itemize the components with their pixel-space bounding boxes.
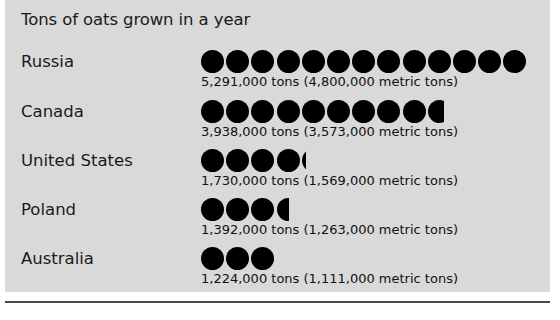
circle-icon [327, 100, 350, 123]
circle-icon [226, 247, 249, 270]
circle-icon [201, 247, 224, 270]
pictogram-symbol-circle [226, 247, 249, 270]
pictogram-row-russia: Russia 5,291,000 tons (4,800,000 metric … [5, 48, 550, 98]
partial-circle-icon [277, 198, 290, 221]
pictogram-symbol-circle [226, 50, 249, 73]
pictogram-row-canada: Canada 3,938,000 tons (3,573,000 metric … [5, 98, 550, 148]
pictogram-symbol-circle [428, 50, 451, 73]
row-label-australia: Australia [21, 249, 94, 268]
pictogram-symbol-circle [453, 50, 476, 73]
circle-icon [453, 50, 476, 73]
row-caption-russia: 5,291,000 tons (4,800,000 metric tons) [201, 74, 458, 89]
pictogram-symbol-circle [201, 247, 224, 270]
pictogram-symbol-circle [302, 50, 325, 73]
row-label-united-states: United States [21, 151, 133, 170]
pictogram-symbol-circle [403, 100, 426, 123]
pictogram-symbol-partial-circle [277, 198, 290, 221]
pictogram-symbol-partial-circle [428, 100, 444, 123]
pictogram-symbol-circle [251, 149, 274, 172]
symbol-group-united-states [201, 147, 309, 173]
circle-icon [428, 50, 451, 73]
pictogram-symbol-circle [201, 149, 224, 172]
pictogram-row-united-states: United States 1,730,000 tons (1,569,000 … [5, 147, 550, 197]
circle-icon [251, 100, 274, 123]
pictogram-symbol-circle [478, 50, 501, 73]
circle-icon [251, 149, 274, 172]
pictogram-symbol-circle [277, 100, 300, 123]
circle-icon [302, 100, 325, 123]
circle-icon [377, 50, 400, 73]
row-caption-canada: 3,938,000 tons (3,573,000 metric tons) [201, 124, 458, 139]
pictogram-symbol-circle [226, 198, 249, 221]
circle-icon [352, 50, 375, 73]
symbol-group-poland [201, 196, 291, 222]
symbol-group-canada [201, 98, 446, 124]
page-footer-rule [5, 301, 550, 303]
row-label-canada: Canada [21, 102, 84, 121]
circle-icon [251, 198, 274, 221]
pictogram-symbol-circle [377, 100, 400, 123]
circle-icon [201, 100, 224, 123]
circle-icon [251, 247, 274, 270]
pictogram-row-australia: Australia 1,224,000 tons (1,111,000 metr… [5, 245, 550, 295]
pictogram-symbol-circle [377, 50, 400, 73]
row-caption-poland: 1,392,000 tons (1,263,000 metric tons) [201, 222, 458, 237]
pictogram-symbol-circle [201, 100, 224, 123]
circle-icon [226, 100, 249, 123]
circle-icon [226, 149, 249, 172]
pictogram-symbol-circle [277, 149, 300, 172]
circle-icon [201, 198, 224, 221]
pictogram-symbol-circle [226, 149, 249, 172]
pictogram-row-poland: Poland 1,392,000 tons (1,263,000 metric … [5, 196, 550, 246]
pictogram-symbol-circle [302, 100, 325, 123]
pictogram-symbol-circle [277, 50, 300, 73]
pictogram-symbol-circle [503, 50, 526, 73]
symbol-group-australia [201, 245, 277, 271]
pictogram-symbol-circle [201, 198, 224, 221]
pictogram-symbol-circle [251, 198, 274, 221]
pictogram-symbol-circle [201, 50, 224, 73]
circle-icon [503, 50, 526, 73]
pictogram-symbol-circle [226, 100, 249, 123]
circle-icon [377, 100, 400, 123]
circle-icon [277, 100, 300, 123]
circle-icon [226, 50, 249, 73]
pictogram-symbol-circle [327, 100, 350, 123]
symbol-group-russia [201, 48, 528, 74]
circle-icon [403, 50, 426, 73]
circle-icon [277, 50, 300, 73]
circle-icon [201, 50, 224, 73]
pictogram-symbol-circle [251, 50, 274, 73]
partial-circle-icon [302, 149, 307, 172]
pictogram-symbol-circle [327, 50, 350, 73]
pictogram-symbol-circle [352, 100, 375, 123]
circle-icon [201, 149, 224, 172]
page-title: Tons of oats grown in a year [21, 10, 250, 29]
partial-circle-icon [428, 100, 444, 123]
row-caption-australia: 1,224,000 tons (1,111,000 metric tons) [201, 271, 458, 286]
pictogram-symbol-partial-circle [302, 149, 307, 172]
row-label-poland: Poland [21, 200, 76, 219]
circle-icon [226, 198, 249, 221]
pictogram-figure: Tons of oats grown in a year Russia 5,29… [5, 0, 550, 292]
row-caption-united-states: 1,730,000 tons (1,569,000 metric tons) [201, 173, 458, 188]
circle-icon [403, 100, 426, 123]
pictogram-symbol-circle [352, 50, 375, 73]
circle-icon [251, 50, 274, 73]
circle-icon [277, 149, 300, 172]
circle-icon [302, 50, 325, 73]
pictogram-symbol-circle [251, 100, 274, 123]
circle-icon [352, 100, 375, 123]
circle-icon [478, 50, 501, 73]
pictogram-symbol-circle [403, 50, 426, 73]
row-label-russia: Russia [21, 52, 74, 71]
circle-icon [327, 50, 350, 73]
pictogram-symbol-circle [251, 247, 274, 270]
